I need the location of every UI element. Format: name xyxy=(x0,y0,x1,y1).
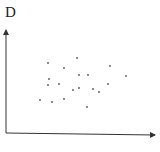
data-point xyxy=(86,106,88,108)
data-point xyxy=(76,57,78,59)
data-point xyxy=(39,99,41,101)
data-point xyxy=(48,78,50,80)
data-point xyxy=(47,84,49,86)
data-point xyxy=(125,75,127,77)
data-point xyxy=(51,101,53,103)
data-point xyxy=(87,74,89,76)
data-point xyxy=(78,87,80,89)
data-point xyxy=(72,89,74,91)
x-axis xyxy=(6,133,155,135)
data-point xyxy=(78,74,80,76)
data-point xyxy=(92,88,94,90)
data-point xyxy=(63,98,65,100)
data-point xyxy=(109,65,111,67)
chart-canvas xyxy=(0,0,160,152)
data-point xyxy=(63,67,65,69)
scatter-chart: D xyxy=(0,0,160,152)
data-point xyxy=(58,83,60,85)
data-points xyxy=(39,57,127,108)
data-point xyxy=(47,62,49,64)
data-point xyxy=(107,83,109,85)
data-point xyxy=(98,91,100,93)
